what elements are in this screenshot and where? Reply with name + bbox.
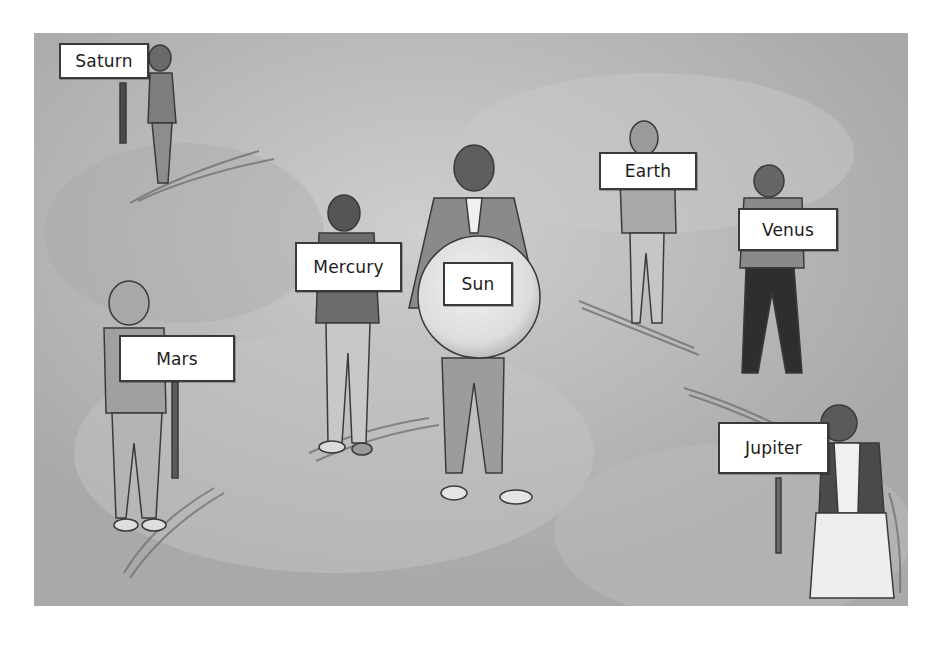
- mars-sign: Mars: [119, 335, 235, 382]
- jupiter-sign: Jupiter: [718, 422, 829, 474]
- mercury-sign-label: Mercury: [313, 257, 383, 277]
- mars-sign-label: Mars: [156, 349, 198, 369]
- saturn-sign: Saturn: [59, 43, 149, 79]
- jupiter-sign-label: Jupiter: [745, 438, 802, 458]
- earth-sign-label: Earth: [625, 161, 672, 181]
- illustration-scene: [34, 33, 908, 606]
- earth-sign: Earth: [599, 152, 697, 190]
- sun-sign-label: Sun: [462, 274, 495, 294]
- mercury-sign: Mercury: [295, 242, 402, 292]
- solar-system-illustration: Saturn Mercury Sun Earth Venus Mars Jupi…: [34, 33, 908, 606]
- sun-sign: Sun: [443, 262, 513, 306]
- venus-sign: Venus: [738, 208, 838, 251]
- venus-sign-label: Venus: [762, 220, 814, 240]
- saturn-sign-label: Saturn: [75, 51, 132, 71]
